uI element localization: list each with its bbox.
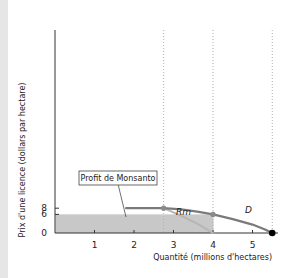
marker-point-1 <box>210 212 215 217</box>
x-tick-label-1: 1 <box>92 240 98 250</box>
x-tick-label-5: 5 <box>250 240 256 250</box>
y-axis-title: Prix d'une licence (dollars par hectare) <box>18 83 27 238</box>
marker-point-0 <box>161 206 166 211</box>
y-tick-label-0: 0 <box>41 228 47 238</box>
x-tick-label-3: 3 <box>171 240 177 250</box>
annotation-pointer <box>118 184 126 217</box>
curve-label-d: D <box>245 205 252 215</box>
marker-point-2 <box>269 230 276 237</box>
x-tick-label-2: 2 <box>131 240 137 250</box>
annotation-profit-label: Profit de Monsanto <box>81 174 156 183</box>
curve-label-rm: Rm <box>176 207 191 217</box>
y-tick-label-8: 8 <box>41 203 47 213</box>
chart: 12345068 Prix d'une licence (dollars par… <box>0 0 297 278</box>
x-axis-title: Quantité (millions d'hectares) <box>153 252 272 262</box>
x-tick-label-4: 4 <box>210 240 216 250</box>
